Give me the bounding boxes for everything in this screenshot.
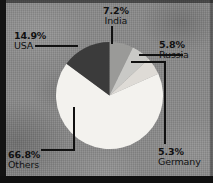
pie-label-india: 7.2% India bbox=[103, 6, 129, 26]
pie-label-usa: 14.9% USA bbox=[14, 31, 46, 51]
frame-border-right bbox=[210, 0, 213, 183]
leader-line-germany-horizontal bbox=[131, 61, 166, 63]
pie-label-india-name: India bbox=[103, 16, 129, 26]
pie-label-others: 66.8% Others bbox=[8, 150, 40, 170]
frame-border-left bbox=[0, 0, 6, 183]
pie-label-russia-name: Russia bbox=[159, 50, 189, 60]
leader-line-germany-vertical bbox=[164, 61, 166, 144]
pie-label-others-name: Others bbox=[8, 160, 40, 170]
leader-line-others-horizontal bbox=[41, 149, 75, 151]
leader-line-india bbox=[111, 26, 113, 44]
pie-label-russia: 5.8% Russia bbox=[159, 40, 189, 60]
pie-label-germany: 5.3% Germany bbox=[158, 147, 201, 167]
leader-line-others-vertical bbox=[73, 107, 75, 151]
pie-label-germany-name: Germany bbox=[158, 157, 201, 167]
frame-border-top bbox=[0, 0, 213, 3]
frame-border-bottom bbox=[0, 176, 213, 183]
pie-label-usa-name: USA bbox=[14, 41, 46, 51]
pie-chart-image: 7.2% India 14.9% USA 5.8% Russia 5.3% Ge… bbox=[0, 0, 213, 183]
